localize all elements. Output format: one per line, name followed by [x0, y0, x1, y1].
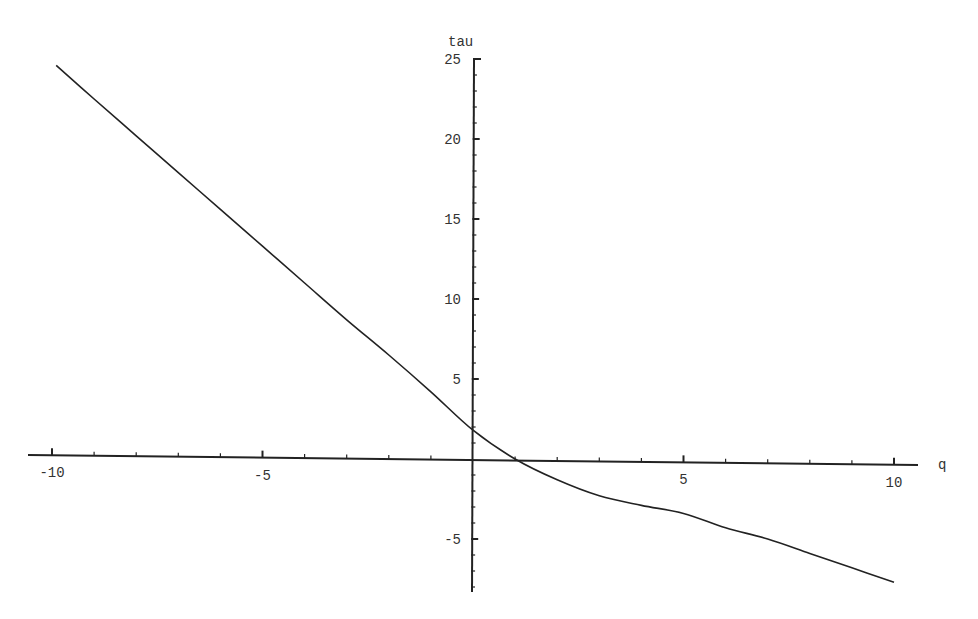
x-tick-label: 5: [679, 472, 687, 488]
x-tick-label: -10: [39, 465, 64, 481]
y-tick-label: 10: [444, 292, 461, 308]
y-axis-label: tau: [448, 34, 473, 50]
y-tick-label: 15: [444, 212, 461, 228]
y-tick-label: 20: [444, 132, 461, 148]
x-axis-label: q: [938, 457, 946, 473]
y-tick-label: -5: [444, 532, 461, 548]
x-axis-tick-labels: -10-5510: [39, 465, 902, 490]
y-tick-label: 5: [453, 372, 461, 388]
y-tick-label: 25: [444, 52, 461, 68]
x-tick-label: -5: [254, 468, 271, 484]
tau-vs-q-chart: -10-5510 -5510152025 q tau: [0, 0, 978, 619]
x-tick-label: 10: [886, 475, 903, 491]
y-axis-tick-labels: -5510152025: [444, 52, 461, 548]
tau-curve: [56, 65, 894, 582]
